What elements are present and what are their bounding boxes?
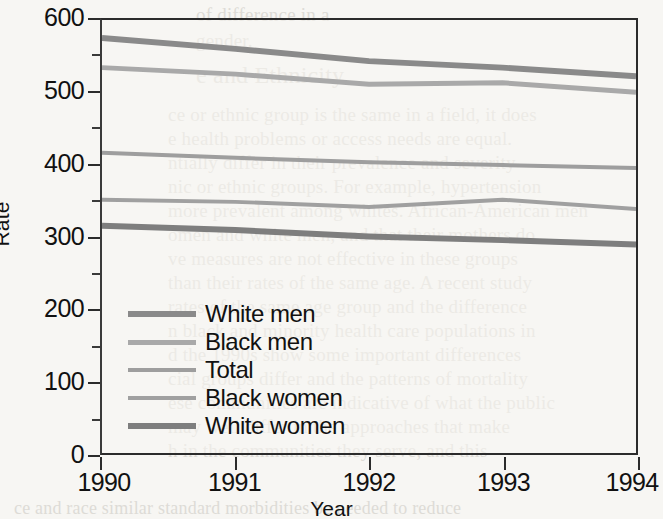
x-axis-tick-label: 1990 — [77, 470, 130, 495]
x-axis-title: Year — [0, 497, 663, 519]
legend-label: Black men — [205, 330, 313, 354]
legend-swatch — [128, 340, 196, 345]
y-axis-major-tick — [88, 91, 100, 93]
y-axis-minor-tick — [92, 419, 100, 421]
y-axis-major-tick — [88, 309, 100, 311]
y-axis-minor-tick — [92, 127, 100, 129]
legend: White menBlack menTotalBlack womenWhite … — [128, 300, 345, 440]
legend-label: Black women — [205, 386, 342, 410]
legend-swatch — [128, 311, 196, 317]
y-axis-minor-tick — [92, 273, 100, 275]
x-axis-tick-label: 1992 — [342, 470, 395, 495]
series-line — [102, 200, 636, 209]
y-axis-tick-label: 200 — [44, 296, 84, 321]
x-axis-tick-label: 1994 — [605, 470, 658, 495]
legend-item: Black men — [128, 328, 345, 356]
y-axis-major-tick — [88, 455, 100, 457]
y-axis-tick-label: 300 — [44, 224, 84, 249]
y-axis-major-tick — [88, 237, 100, 239]
legend-item: Total — [128, 356, 345, 384]
line-chart-figure: of difference in agender.e and Ethnicity… — [0, 0, 663, 519]
y-axis-major-tick — [88, 18, 100, 20]
y-axis-title: Rate — [0, 201, 14, 246]
y-axis-minor-tick — [92, 54, 100, 56]
legend-swatch — [128, 396, 196, 400]
legend-item: Black women — [128, 384, 345, 412]
y-axis-major-tick — [88, 382, 100, 384]
y-axis-minor-tick — [92, 200, 100, 202]
legend-swatch — [128, 423, 196, 429]
y-axis-major-tick — [88, 164, 100, 166]
y-axis-tick-label: 0 — [71, 442, 84, 467]
series-line — [102, 153, 636, 168]
legend-item: White women — [128, 412, 345, 440]
legend-item: White men — [128, 300, 345, 328]
y-axis-tick-label: 100 — [44, 369, 84, 394]
x-axis-tick-label: 1993 — [477, 470, 530, 495]
y-axis-tick-label: 600 — [44, 5, 84, 30]
y-axis-minor-tick — [92, 346, 100, 348]
legend-label: Total — [205, 358, 253, 382]
x-axis-tick-label: 1991 — [208, 470, 261, 495]
legend-label: White women — [205, 414, 345, 438]
y-axis-tick-label: 500 — [44, 78, 84, 103]
legend-swatch — [128, 368, 196, 372]
series-line — [102, 226, 636, 245]
y-axis-tick-label: 400 — [44, 151, 84, 176]
legend-label: White men — [205, 302, 315, 326]
